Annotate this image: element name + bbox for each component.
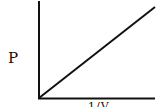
data-line xyxy=(39,7,155,98)
y-axis-label: P xyxy=(8,51,18,66)
x-axis-label: 1/V xyxy=(88,101,110,107)
chart: P 1/V xyxy=(0,0,156,107)
chart-canvas xyxy=(0,0,156,107)
